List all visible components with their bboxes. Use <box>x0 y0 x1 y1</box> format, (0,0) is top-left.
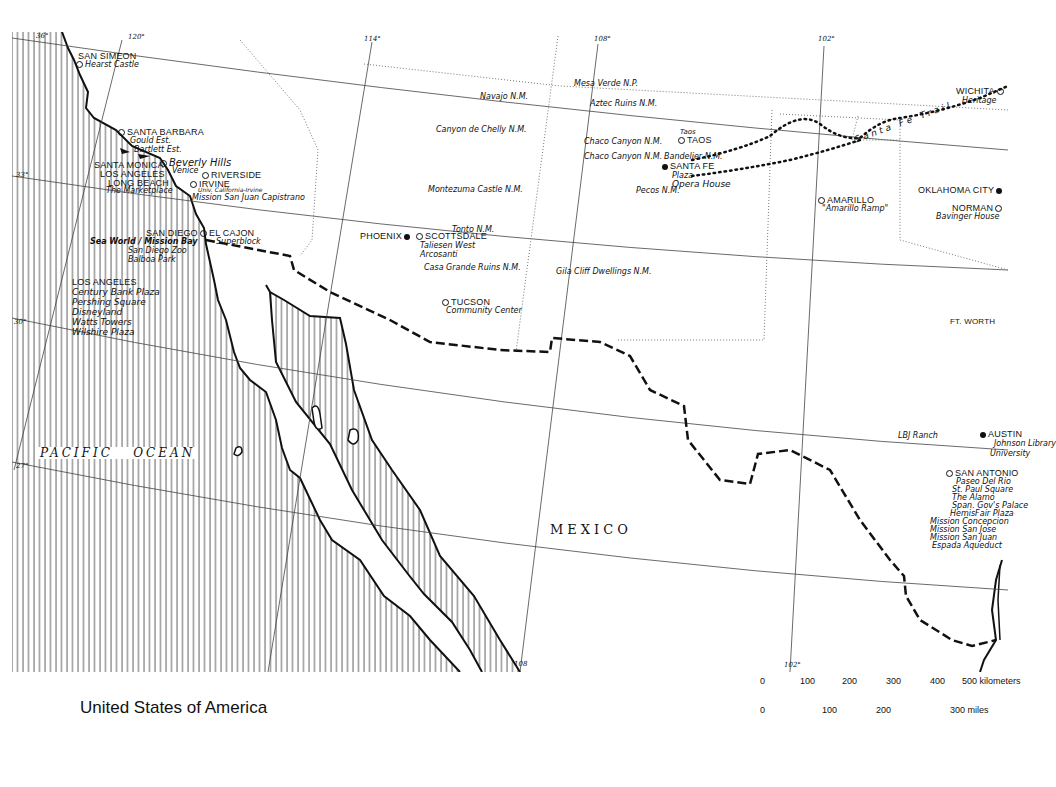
site-sea-world: Sea World / Mission Bay <box>90 238 198 246</box>
scale-mi-100: 100 <box>822 706 837 715</box>
site-johnson-library: Johnson Library <box>994 440 1056 448</box>
site-taliesen-west: Taliesen West <box>420 242 475 250</box>
site-arcosanti: Arcosanti <box>420 251 458 259</box>
city-scottsdale: SCOTTSDALE <box>414 232 487 241</box>
city-wichita: WICHITA <box>956 87 1006 96</box>
scale-bar <box>762 689 1008 703</box>
city-ft-worth: FT. WORTH <box>950 318 995 326</box>
la-site-4: Wilshire Plaza <box>72 328 135 337</box>
la-site-2: Disneyland <box>72 308 122 317</box>
site-university: University <box>990 450 1030 458</box>
site-bartlett-est: Bartlett Est. <box>134 146 182 154</box>
scale-km-0: 0 <box>760 677 765 686</box>
monument-aztec-ruins: Aztec Ruins N.M. <box>590 100 657 108</box>
sa-site-8: Espada Aqueduct <box>932 542 1002 550</box>
scale-mi-0: 0 <box>760 706 765 715</box>
monument-gila-cliff: Gila Cliff Dwellings N.M. <box>556 268 652 276</box>
site-opera-house: Opera House <box>672 180 731 189</box>
city-santa-fe: SANTA FE <box>660 162 714 171</box>
site-san-diego-zoo: San Diego Zoo <box>128 247 187 255</box>
la-site-3: Watts Towers <box>72 318 132 327</box>
la-site-1: Pershing Square <box>72 298 146 307</box>
lon-120-label: 120° <box>128 34 145 41</box>
site-hearst-castle: Hearst Castle <box>74 61 139 69</box>
city-oklahoma-city: OKLAHOMA CITY <box>918 186 1004 195</box>
city-austin: AUSTIN <box>978 430 1022 439</box>
monument-mesa-verde: Mesa Verde N.P. <box>574 80 638 88</box>
lat-36-label: 36° <box>36 33 48 40</box>
scale-km-300: 300 <box>886 677 901 686</box>
lat-30-label: 30° <box>14 319 26 326</box>
site-taos: Taos <box>680 129 696 136</box>
site-balboa-park: Balboa Park <box>128 256 176 264</box>
site-mission-capistrano: Mission San Juan Capistrano <box>192 194 305 202</box>
site-superblock: Superblock <box>216 238 261 246</box>
scale-km-400: 400 <box>930 677 945 686</box>
lat-33-label: 33° <box>16 172 28 179</box>
site-heritage: Heritage <box>962 97 997 105</box>
lon-108-bottom-label: 108 <box>514 661 527 668</box>
city-phoenix: PHOENIX <box>360 232 412 241</box>
site-amarillo-ramp: "Amarillo Ramp" <box>822 205 888 213</box>
scale-km-200: 200 <box>842 677 857 686</box>
scale-mi-200: 200 <box>876 706 891 715</box>
monument-navajo: Navajo N.M. <box>480 93 528 101</box>
monument-chaco-canyon-2: Chaco Canyon N.M. <box>584 153 662 161</box>
monument-pecos: Pecos N.M. <box>636 187 680 195</box>
mexico-label: MEXICO <box>550 523 632 536</box>
map-title: United States of America <box>80 699 267 716</box>
site-community-center: Community Center <box>446 307 522 315</box>
la-block-heading: LOS ANGELES <box>72 278 137 287</box>
la-site-0: Century Bank Plaza <box>72 288 160 297</box>
site-gould-est: Gould Est. <box>130 137 171 145</box>
scale-mi-300: 300 miles <box>950 706 989 715</box>
monument-chaco-canyon-1: Chaco Canyon N.M. <box>584 138 662 146</box>
monument-montezuma-castle: Montezuma Castle N.M. <box>428 186 523 194</box>
lon-102-bottom-label: 102° <box>784 662 801 669</box>
site-venice: Venice <box>172 167 199 175</box>
scale-km-100: 100 <box>800 677 815 686</box>
monument-bandelier: Bandelier N.M. <box>664 153 723 161</box>
site-bavinger-house: Bavinger House <box>936 213 999 221</box>
pacific-label: PACIFIC OCEAN <box>38 447 197 459</box>
city-taos: TAOS <box>676 136 712 145</box>
site-lbj-ranch: LBJ Ranch <box>898 432 938 440</box>
pacific-ocean <box>12 32 460 672</box>
lon-102-label: 102° <box>818 36 835 43</box>
lon-108-label: 108° <box>594 36 611 43</box>
monument-casa-grande: Casa Grande Ruins N.M. <box>424 264 521 272</box>
lat-27-label: 27° <box>16 463 28 470</box>
monument-canyon-de-chelly: Canyon de Chelly N.M. <box>436 126 527 134</box>
scale-km-500: 500 kilometers <box>962 677 1021 686</box>
site-marketplace: The Marketplace <box>106 187 173 195</box>
lon-114-label: 114° <box>364 36 381 43</box>
santa-fe-trail <box>692 86 1008 160</box>
